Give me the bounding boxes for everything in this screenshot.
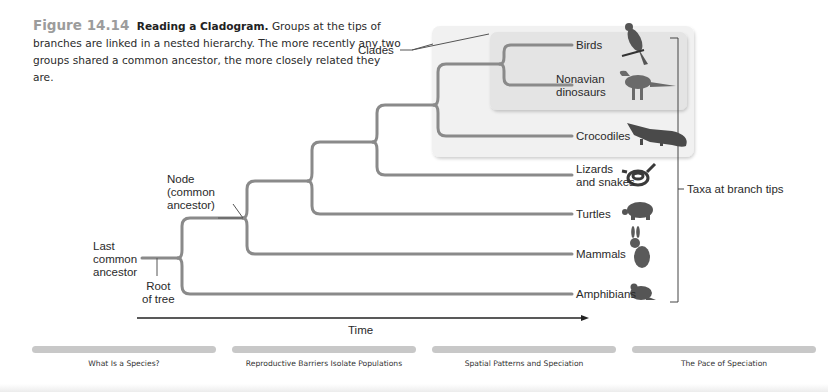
time-label: Time — [348, 324, 373, 337]
turtle-icon — [622, 202, 653, 220]
cladogram — [0, 0, 828, 392]
time-arrowhead — [581, 315, 589, 321]
nav-label[interactable]: What Is a Species? — [32, 359, 216, 368]
nav-spatial-patterns[interactable]: Spatial Patterns and Speciation — [432, 346, 616, 368]
bottom-band — [0, 384, 828, 392]
nav-pace-of-speciation[interactable]: The Pace of Speciation — [632, 346, 816, 368]
taxa-label: Taxa at branch tips — [687, 183, 784, 196]
nav-label[interactable]: Spatial Patterns and Speciation — [432, 359, 616, 368]
nav-bar[interactable] — [632, 346, 816, 353]
root-of-tree-label: Root of tree — [142, 280, 175, 306]
taxon-mammals: Mammals — [576, 248, 626, 261]
nav-bar[interactable] — [232, 346, 416, 353]
taxon-turtles: Turtles — [576, 208, 611, 221]
nav-label[interactable]: The Pace of Speciation — [632, 359, 816, 368]
nav-what-is-a-species[interactable]: What Is a Species? — [32, 346, 216, 368]
node-label: Node (common ancestor) — [167, 173, 215, 212]
taxon-birds: Birds — [576, 39, 602, 52]
taxon-amphibians: Amphibians — [576, 288, 636, 301]
nav-bar[interactable] — [32, 346, 216, 353]
nav-bar[interactable] — [432, 346, 616, 353]
taxon-nonavian-dinosaurs: Nonavian dinosaurs — [556, 73, 606, 99]
rabbit-icon — [630, 226, 650, 268]
taxon-crocodiles: Crocodiles — [576, 130, 630, 143]
last-common-ancestor-label: Last common ancestor — [93, 240, 137, 279]
clades-label: Clades — [358, 44, 394, 57]
taxon-lizards-snakes: Lizards and snakes — [576, 163, 635, 189]
nav-reproductive-barriers[interactable]: Reproductive Barriers Isolate Population… — [232, 346, 416, 368]
nav-label[interactable]: Reproductive Barriers Isolate Population… — [232, 359, 416, 368]
